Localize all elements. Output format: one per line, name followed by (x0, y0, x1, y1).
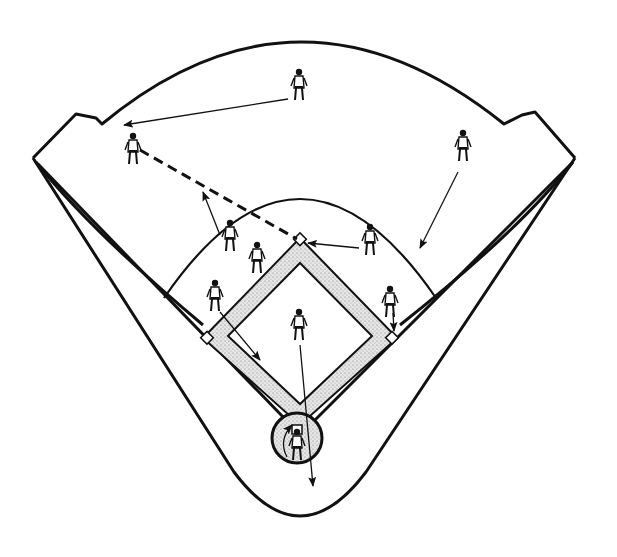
outfield-fence (33, 42, 575, 158)
player-shortstop (222, 220, 238, 251)
throw-line (140, 150, 297, 239)
baseball-diagram (0, 0, 617, 557)
player-first-baseman (382, 286, 398, 317)
player-center-fielder (291, 69, 307, 100)
arrow-shortstop (203, 192, 220, 235)
player-baserunner (249, 242, 265, 273)
player-left-fielder (125, 133, 141, 164)
infield-dirt (203, 238, 397, 425)
player-right-fielder (455, 130, 471, 161)
arrow-center-fielder (124, 99, 288, 125)
arrow-right-fielder (420, 172, 458, 248)
player-third-baseman (207, 280, 223, 311)
player-pitcher (291, 309, 307, 340)
arrow-second-baseman (308, 243, 359, 248)
